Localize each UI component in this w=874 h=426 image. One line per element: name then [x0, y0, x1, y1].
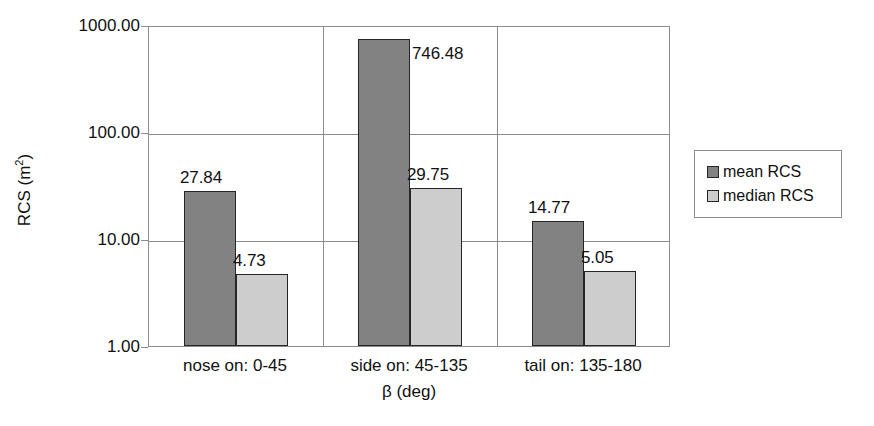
y-tick-mark — [141, 133, 148, 134]
y-axis-title: RCS (m2) — [8, 120, 42, 260]
bar-median-0 — [236, 274, 288, 346]
bar-mean-0 — [184, 191, 236, 346]
legend-label-median: median RCS — [723, 187, 814, 205]
y-tick-label: 1.00 — [40, 337, 140, 356]
y-tick-mark — [141, 26, 148, 27]
x-tick-label: tail on: 135-180 — [496, 356, 670, 376]
data-label-mean-2: 14.77 — [528, 198, 570, 217]
gridline-vertical — [497, 27, 498, 346]
y-tick-label: 1000.00 — [40, 16, 140, 35]
data-label-median-0: 4.73 — [233, 251, 266, 270]
legend-item-median-rcs[interactable]: median RCS — [707, 184, 833, 208]
bar-median-2 — [584, 271, 636, 346]
y-axis-title-exponent: 2 — [13, 160, 25, 166]
y-tick-mark — [141, 240, 148, 241]
y-tick-label: 10.00 — [40, 230, 140, 249]
y-tick-mark — [141, 347, 148, 348]
bar-median-1 — [410, 188, 462, 346]
data-label-mean-1: 746.48 — [412, 44, 463, 63]
legend-swatch-mean-icon — [707, 166, 719, 178]
x-tick-label: side on: 45-135 — [322, 356, 496, 376]
data-label-mean-0: 27.84 — [180, 168, 222, 187]
legend-item-mean-rcs[interactable]: mean RCS — [707, 160, 833, 184]
y-axis-title-close: ) — [15, 154, 34, 160]
rcs-bar-chart: RCS (m2) 1.0010.00100.001000.00 27.844.7… — [0, 0, 874, 426]
legend-swatch-median-icon — [707, 190, 719, 202]
y-tick-label: 100.00 — [40, 123, 140, 142]
x-axis-title: β (deg) — [148, 382, 670, 402]
data-label-median-2: 5.05 — [581, 248, 614, 267]
x-tick-label: nose on: 0-45 — [148, 356, 322, 376]
data-label-median-1: 29.75 — [407, 165, 449, 184]
bar-mean-1 — [358, 39, 410, 346]
plot-area — [148, 26, 670, 347]
y-axis-title-base: RCS (m — [15, 166, 34, 226]
legend-label-mean: mean RCS — [723, 163, 801, 181]
bar-mean-2 — [532, 221, 584, 346]
gridline-vertical — [323, 27, 324, 346]
chart-legend: mean RCS median RCS — [694, 150, 842, 218]
